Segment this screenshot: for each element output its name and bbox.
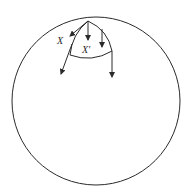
arrow-outer-left xyxy=(61,44,72,74)
label-x: X xyxy=(56,35,64,46)
arrow-x xyxy=(70,21,88,36)
outer-circle xyxy=(12,17,180,185)
diagram-canvas: X X' xyxy=(0,0,186,193)
cap-right-arc xyxy=(88,21,112,51)
cap-bottom-arc xyxy=(70,51,112,58)
label-x-prime: X' xyxy=(81,44,91,55)
